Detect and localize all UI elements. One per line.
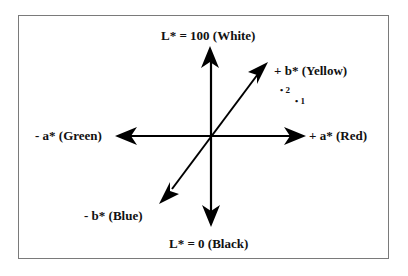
- arrow-b-pos-icon: [248, 62, 268, 84]
- l-min-label: L* = 0 (Black): [169, 237, 248, 250]
- b-axis-line: [172, 74, 258, 189]
- point-marker: •: [280, 85, 283, 95]
- data-point-2: • 2: [280, 86, 290, 95]
- a-pos-label: + a* (Red): [309, 129, 367, 142]
- l-max-label: L* = 100 (White): [161, 29, 255, 42]
- a-neg-label: - a* (Green): [35, 129, 102, 142]
- point-marker: •: [295, 96, 298, 106]
- data-point-1: • 1: [295, 97, 305, 106]
- point-label: 1: [300, 96, 305, 106]
- b-pos-label: + b* (Yellow): [274, 64, 347, 77]
- b-neg-label: - b* (Blue): [84, 209, 143, 222]
- point-label: 2: [285, 85, 290, 95]
